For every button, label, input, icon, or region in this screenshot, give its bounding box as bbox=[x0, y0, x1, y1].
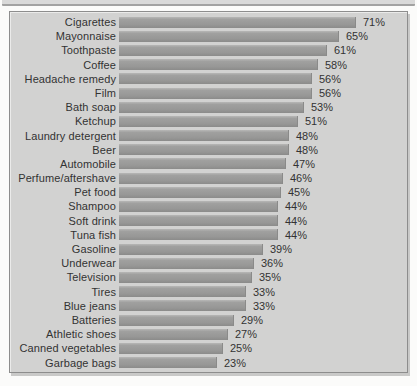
bar-value-label: 23% bbox=[224, 356, 246, 370]
figure: Cigarettes71%Mayonnaise65%Toothpaste61%C… bbox=[0, 0, 417, 386]
bar-row: Mayonnaise65% bbox=[10, 29, 407, 43]
bar-rect bbox=[119, 187, 281, 198]
bar-label: Athletic shoes bbox=[10, 327, 116, 341]
bar-label: Bath soap bbox=[10, 100, 116, 114]
bar-rect bbox=[119, 130, 289, 141]
bar-rect bbox=[119, 102, 304, 113]
bar-rect bbox=[119, 173, 283, 184]
bar-label: Perfume/aftershave bbox=[10, 171, 116, 185]
bar-row: Beer48% bbox=[10, 143, 407, 157]
bar-row: Soft drink44% bbox=[10, 214, 407, 228]
bar-label: Pet food bbox=[10, 185, 116, 199]
bar-rect bbox=[119, 343, 223, 354]
bar-value-label: 33% bbox=[253, 285, 275, 299]
bar-label: Tuna fish bbox=[10, 228, 116, 242]
bar-row: Headache remedy56% bbox=[10, 72, 407, 86]
bar-rect bbox=[119, 59, 318, 70]
bar-row: Batteries29% bbox=[10, 313, 407, 327]
bar-value-label: 58% bbox=[325, 58, 347, 72]
bar-value-label: 56% bbox=[319, 72, 341, 86]
bar-row: Athletic shoes27% bbox=[10, 327, 407, 341]
bar-rect bbox=[119, 215, 278, 226]
bar-row: Perfume/aftershave46% bbox=[10, 171, 407, 185]
bar-label: Headache remedy bbox=[10, 72, 116, 86]
bar-value-label: 45% bbox=[288, 185, 310, 199]
bar-rect bbox=[119, 258, 254, 269]
bar-label: Coffee bbox=[10, 58, 116, 72]
bar-rect bbox=[119, 357, 217, 368]
bar-label: Film bbox=[10, 86, 116, 100]
bar-rect bbox=[119, 229, 278, 240]
top-rule bbox=[2, 0, 415, 6]
bar-rect bbox=[119, 201, 278, 212]
bar-row: Gasoline39% bbox=[10, 242, 407, 256]
bar-value-label: 53% bbox=[311, 100, 333, 114]
bar-row: Tuna fish44% bbox=[10, 228, 407, 242]
bar-label: Automobile bbox=[10, 157, 116, 171]
bar-row: Ketchup51% bbox=[10, 114, 407, 128]
bar-rect bbox=[119, 73, 312, 84]
bar-row: Underwear36% bbox=[10, 256, 407, 270]
bar-value-label: 44% bbox=[285, 214, 307, 228]
bar-rect bbox=[119, 158, 286, 169]
bar-rect bbox=[119, 315, 234, 326]
bar-label: Gasoline bbox=[10, 242, 116, 256]
bar-row: Automobile47% bbox=[10, 157, 407, 171]
bar-label: Underwear bbox=[10, 256, 116, 270]
bar-value-label: 39% bbox=[270, 242, 292, 256]
bar-row: Shampoo44% bbox=[10, 199, 407, 213]
bar-value-label: 51% bbox=[305, 114, 327, 128]
bar-rect bbox=[119, 116, 298, 127]
bar-chart: Cigarettes71%Mayonnaise65%Toothpaste61%C… bbox=[10, 15, 407, 370]
bar-rect bbox=[119, 244, 263, 255]
bar-value-label: 46% bbox=[290, 171, 312, 185]
bar-row: Canned vegetables25% bbox=[10, 341, 407, 355]
chart-panel: Cigarettes71%Mayonnaise65%Toothpaste61%C… bbox=[9, 11, 408, 373]
bar-value-label: 47% bbox=[293, 157, 315, 171]
bar-row: Film56% bbox=[10, 86, 407, 100]
bar-row: Television35% bbox=[10, 270, 407, 284]
bar-value-label: 25% bbox=[230, 341, 252, 355]
bar-label: Laundry detergent bbox=[10, 129, 116, 143]
bar-rect bbox=[119, 144, 289, 155]
bar-row: Laundry detergent48% bbox=[10, 129, 407, 143]
bar-value-label: 29% bbox=[241, 313, 263, 327]
bar-row: Pet food45% bbox=[10, 185, 407, 199]
bar-rect bbox=[119, 31, 339, 42]
bar-label: Canned vegetables bbox=[10, 341, 116, 355]
bar-rect bbox=[119, 286, 246, 297]
bar-label: Television bbox=[10, 270, 116, 284]
bar-label: Tires bbox=[10, 285, 116, 299]
bar-row: Tires33% bbox=[10, 285, 407, 299]
bar-rect bbox=[119, 17, 356, 28]
bar-rect bbox=[119, 329, 228, 340]
bar-label: Beer bbox=[10, 143, 116, 157]
bar-rect bbox=[119, 300, 246, 311]
bar-value-label: 56% bbox=[319, 86, 341, 100]
bar-label: Garbage bags bbox=[10, 356, 116, 370]
bar-rect bbox=[119, 88, 312, 99]
bar-value-label: 44% bbox=[285, 199, 307, 213]
bar-row: Cigarettes71% bbox=[10, 15, 407, 29]
bar-value-label: 65% bbox=[346, 29, 368, 43]
bar-value-label: 33% bbox=[253, 299, 275, 313]
bar-label: Shampoo bbox=[10, 199, 116, 213]
bar-value-label: 71% bbox=[363, 15, 385, 29]
bar-label: Cigarettes bbox=[10, 15, 116, 29]
bar-label: Soft drink bbox=[10, 214, 116, 228]
bar-label: Ketchup bbox=[10, 114, 116, 128]
bar-row: Blue jeans33% bbox=[10, 299, 407, 313]
bar-rect bbox=[119, 45, 327, 56]
bar-row: Garbage bags23% bbox=[10, 356, 407, 370]
bar-label: Blue jeans bbox=[10, 299, 116, 313]
bar-label: Batteries bbox=[10, 313, 116, 327]
bar-value-label: 48% bbox=[296, 143, 318, 157]
bar-row: Bath soap53% bbox=[10, 100, 407, 114]
bar-value-label: 44% bbox=[285, 228, 307, 242]
bar-value-label: 61% bbox=[334, 43, 356, 57]
bar-label: Toothpaste bbox=[10, 43, 116, 57]
bar-rect bbox=[119, 272, 252, 283]
bar-row: Toothpaste61% bbox=[10, 43, 407, 57]
bar-label: Mayonnaise bbox=[10, 29, 116, 43]
bar-value-label: 27% bbox=[235, 327, 257, 341]
